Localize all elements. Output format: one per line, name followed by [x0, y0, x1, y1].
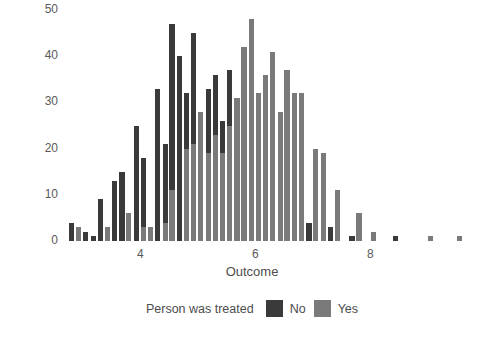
bar-yes: [141, 227, 146, 241]
plot-area: [57, 10, 497, 241]
bar-yes: [76, 227, 81, 241]
bar-no: [134, 126, 139, 242]
x-axis-title: Outcome: [0, 264, 504, 279]
bar-yes: [299, 93, 304, 241]
x-tick-label: 4: [120, 247, 160, 261]
bar-no: [119, 172, 124, 241]
bar-yes: [227, 126, 232, 242]
bar-no: [112, 181, 117, 241]
bar-no: [91, 236, 96, 241]
bar-no: [349, 236, 354, 241]
bar-no: [69, 223, 74, 241]
legend-title: Person was treated: [146, 302, 254, 316]
bar-yes: [191, 144, 196, 241]
bar-yes: [313, 149, 318, 241]
bar-yes: [220, 153, 225, 241]
bar-yes: [126, 213, 131, 241]
bar-no: [306, 223, 311, 241]
bar-yes: [234, 98, 239, 241]
bar-yes: [356, 213, 361, 241]
legend-label-no: No: [290, 302, 306, 316]
bar-yes: [278, 112, 283, 241]
y-tick-label: 30: [18, 94, 58, 108]
bar-yes: [270, 52, 275, 241]
bar-yes: [241, 47, 246, 241]
bar-no: [155, 89, 160, 241]
bar-yes: [105, 227, 110, 241]
bar-yes: [371, 232, 376, 241]
legend-key-yes[interactable]: Yes: [314, 300, 358, 317]
y-tick-label: 10: [18, 187, 58, 201]
legend-label-yes: Yes: [338, 302, 358, 316]
bar-yes: [169, 190, 174, 241]
y-axis-ticks: 01020304050: [0, 0, 58, 260]
bar-yes: [263, 75, 268, 241]
legend-swatch-yes: [314, 300, 331, 317]
bar-yes: [256, 93, 261, 241]
y-tick-label: 0: [18, 233, 58, 247]
histogram-figure: Number of people 01020304050 468 Outcome…: [0, 0, 504, 346]
bar-no: [328, 227, 333, 241]
bar-yes: [284, 70, 289, 241]
x-tick-label: 6: [235, 247, 275, 261]
y-tick-label: 20: [18, 141, 58, 155]
x-tick-label: 8: [350, 247, 390, 261]
bar-yes: [184, 149, 189, 241]
legend-key-no[interactable]: No: [266, 300, 306, 317]
legend: Person was treated No Yes: [0, 300, 504, 317]
legend-swatch-no: [266, 300, 283, 317]
bar-yes: [213, 135, 218, 241]
bar-no: [393, 236, 398, 241]
y-tick-label: 50: [18, 2, 58, 16]
bar-yes: [457, 236, 462, 241]
bar-yes: [321, 153, 326, 241]
bar-no: [83, 232, 88, 241]
bar-yes: [163, 223, 168, 241]
bar-yes: [249, 19, 254, 241]
bar-yes: [335, 190, 340, 241]
bar-yes: [206, 153, 211, 241]
bar-no: [177, 56, 182, 241]
bar-yes: [428, 236, 433, 241]
y-tick-label: 40: [18, 48, 58, 62]
bar-yes: [292, 93, 297, 241]
bar-yes: [198, 112, 203, 241]
bar-no: [98, 199, 103, 241]
bar-yes: [148, 227, 153, 241]
